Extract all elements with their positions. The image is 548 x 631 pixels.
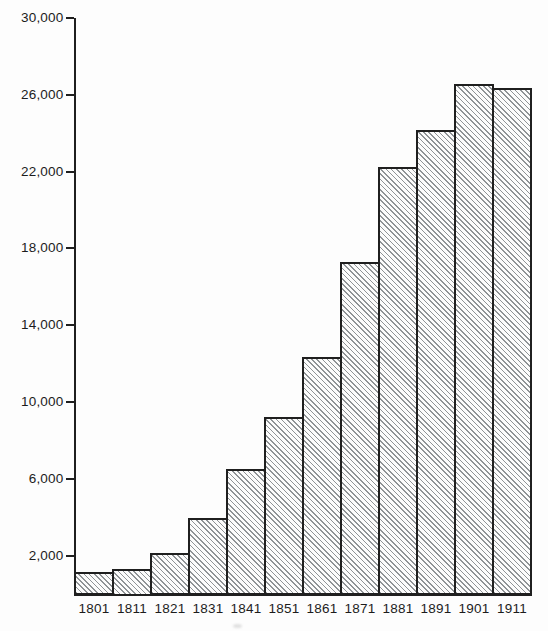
y-tick-label: 14,000: [4, 317, 64, 333]
y-axis-line: [74, 18, 76, 596]
y-tick: [66, 401, 74, 403]
bar-1821: [150, 553, 190, 595]
y-tick-label: 22,000: [4, 164, 64, 180]
bar-1831: [188, 518, 228, 596]
bar-1881: [378, 167, 418, 596]
y-tick: [66, 17, 74, 19]
y-tick-label: 10,000: [4, 394, 64, 410]
y-tick: [66, 247, 74, 249]
bar-1811: [112, 569, 152, 595]
y-tick: [66, 94, 74, 96]
y-tick: [66, 171, 74, 173]
y-tick-label: 30,000: [4, 10, 64, 26]
bar-1871: [340, 262, 380, 596]
y-tick-label: 18,000: [4, 240, 64, 256]
scan-artifact-smudge: [233, 624, 242, 628]
bar-1891: [416, 130, 456, 595]
bar-1841: [226, 469, 266, 596]
y-tick: [66, 324, 74, 326]
y-tick-label: 6,000: [4, 471, 64, 487]
bar-1901: [454, 84, 494, 595]
y-tick: [66, 555, 74, 557]
y-tick-label: 26,000: [4, 87, 64, 103]
bar-1911: [492, 88, 532, 596]
x-axis-label: 1911: [482, 601, 542, 617]
y-tick-label: 2,000: [4, 548, 64, 564]
population-bar-chart: 2,0006,00010,00014,00018,00022,00026,000…: [0, 0, 548, 631]
bar-1851: [264, 417, 304, 596]
bar-1861: [302, 357, 342, 595]
y-tick: [66, 478, 74, 480]
bar-1801: [74, 572, 114, 595]
